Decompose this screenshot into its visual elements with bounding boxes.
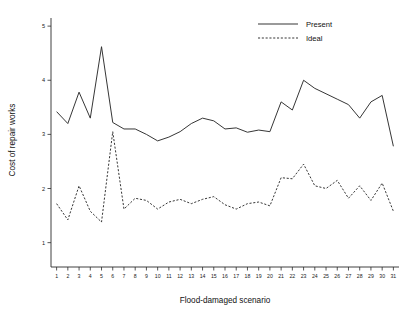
line-chart-svg: 12345 1234567891011121314151617181920212… xyxy=(0,0,410,319)
x-tick-label-22: 22 xyxy=(289,273,295,279)
x-tick-label-3: 3 xyxy=(78,273,81,279)
x-tick-label-5: 5 xyxy=(100,273,103,279)
x-tick-label-8: 8 xyxy=(134,273,137,279)
x-tick-label-16: 16 xyxy=(222,273,228,279)
x-tick-label-28: 28 xyxy=(357,273,363,279)
x-tick-label-14: 14 xyxy=(200,273,206,279)
y-axis-title: Cost of repair works xyxy=(8,104,17,177)
x-tick-label-26: 26 xyxy=(334,273,340,279)
x-tick-label-12: 12 xyxy=(177,273,183,279)
x-axis-title: Flood-damaged scenario xyxy=(180,296,271,305)
x-tick-label-27: 27 xyxy=(346,273,352,279)
chart-figure: 12345 1234567891011121314151617181920212… xyxy=(0,0,410,319)
x-tick-label-10: 10 xyxy=(155,273,161,279)
x-tick-label-9: 9 xyxy=(145,273,148,279)
y-tick-label-1: 1 xyxy=(42,240,45,246)
x-tick-label-11: 11 xyxy=(166,273,171,279)
x-tick-label-13: 13 xyxy=(188,273,194,279)
y-tick-label-5: 5 xyxy=(42,23,45,29)
x-tick-label-31: 31 xyxy=(390,273,396,279)
x-tick-label-6: 6 xyxy=(111,273,114,279)
x-tick-label-17: 17 xyxy=(233,273,239,279)
x-tick-label-7: 7 xyxy=(123,273,126,279)
x-tick-label-25: 25 xyxy=(323,273,329,279)
x-tick-label-15: 15 xyxy=(211,273,217,279)
x-tick-label-23: 23 xyxy=(301,273,307,279)
plot-background xyxy=(0,0,410,319)
x-tick-label-4: 4 xyxy=(89,273,92,279)
x-tick-label-21: 21 xyxy=(278,273,284,279)
x-tick-label-19: 19 xyxy=(256,273,262,279)
x-tick-label-20: 20 xyxy=(267,273,273,279)
x-tick-label-18: 18 xyxy=(245,273,251,279)
x-tick-label-2: 2 xyxy=(66,273,69,279)
x-tick-label-30: 30 xyxy=(379,273,385,279)
y-tick-label-4: 4 xyxy=(42,77,45,83)
legend-label-present: Present xyxy=(306,20,333,29)
y-tick-label-2: 2 xyxy=(42,186,45,192)
x-tick-label-29: 29 xyxy=(368,273,374,279)
x-tick-label-1: 1 xyxy=(55,273,58,279)
legend-label-ideal: Ideal xyxy=(306,34,323,43)
y-tick-label-3: 3 xyxy=(42,131,45,137)
x-tick-label-24: 24 xyxy=(312,273,318,279)
